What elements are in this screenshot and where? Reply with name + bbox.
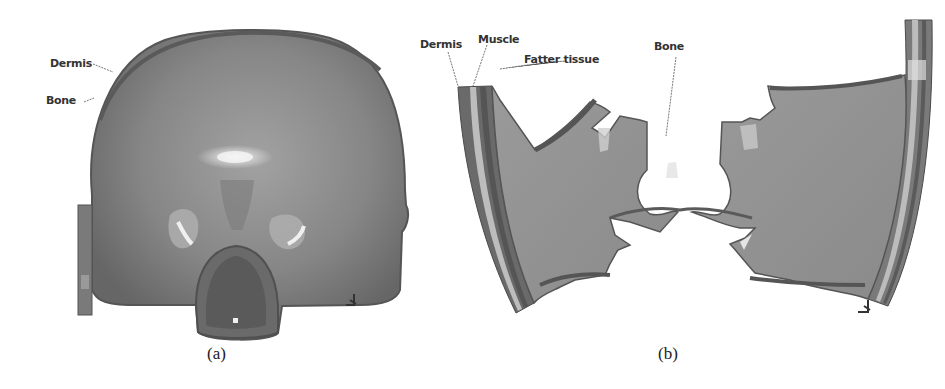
panel-a: Dermis Bone (a) (0, 0, 440, 389)
label-fatter-tissue-b: Fatter tissue (524, 53, 599, 66)
head-model-section-render (440, 0, 945, 389)
label-bone-a: Bone (46, 94, 76, 107)
axis-triad-icon-b (858, 300, 870, 312)
caption-a: (a) (207, 344, 226, 364)
label-dermis-b: Dermis (420, 38, 462, 51)
label-dermis-a: Dermis (50, 57, 92, 70)
panel-b: Dermis Muscle Fatter tissue Bone (b) (440, 0, 945, 389)
label-muscle-b: Muscle (478, 33, 519, 46)
caption-b: (b) (658, 344, 678, 364)
label-bone-b: Bone (654, 40, 684, 53)
